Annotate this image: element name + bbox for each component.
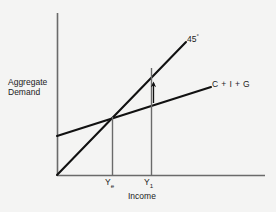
- x-axis-label: Income: [128, 192, 156, 202]
- y-axis-label: Aggregate Demand: [8, 78, 56, 97]
- forty-five-degree-label: 45°: [187, 33, 199, 44]
- tick-label-y1-subscript: 1: [150, 182, 153, 189]
- expenditure-line-label: C + I + G: [212, 80, 250, 90]
- tick-label-y1: Y1: [144, 178, 153, 190]
- plot-area: [0, 0, 276, 212]
- degree-symbol: °: [196, 33, 198, 39]
- keynesian-cross-figure: Aggregate Demand Income 45° C + I + G Ye…: [0, 0, 276, 212]
- y-axis-label-line1: Aggregate: [8, 77, 47, 87]
- tick-label-ye: Ye: [105, 178, 114, 190]
- tick-label-ye-subscript: e: [111, 182, 114, 189]
- y-axis-label-line2: Demand: [8, 88, 56, 98]
- forty-five-degree-line: [57, 42, 186, 175]
